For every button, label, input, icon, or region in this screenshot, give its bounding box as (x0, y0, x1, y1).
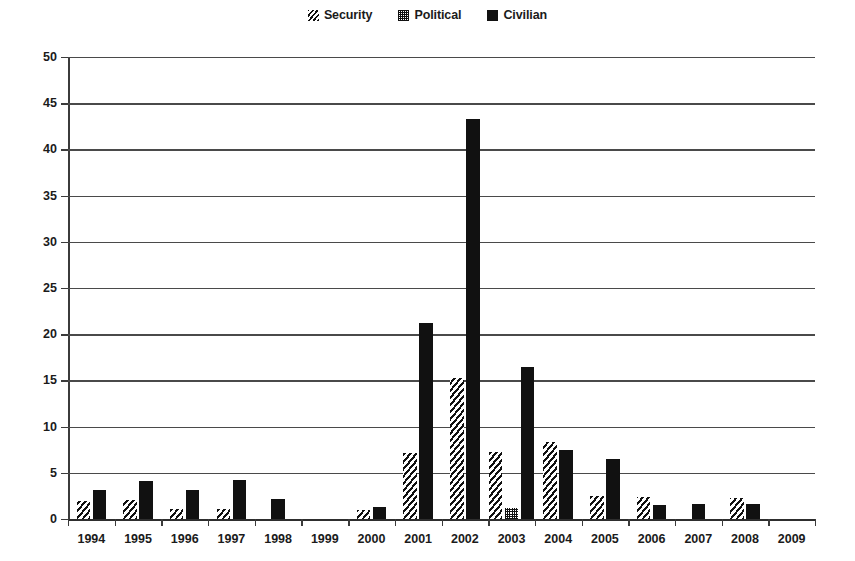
y-axis-tick-label: 20 (43, 327, 57, 341)
x-tick-mark (68, 519, 69, 526)
y-axis-tick-label: 25 (43, 281, 57, 295)
legend-label: Political (414, 8, 461, 22)
y-axis-tick-label: 10 (43, 420, 57, 434)
x-axis-tick-label-2004: 2004 (544, 532, 572, 546)
y-axis-tick-label: 5 (50, 466, 57, 480)
y-tick-mark-40 (61, 149, 68, 150)
x-axis-tick-label-1999: 1999 (311, 532, 339, 546)
x-tick-mark (115, 519, 116, 526)
x-tick-mark (348, 519, 349, 526)
y-tick-mark-35 (61, 196, 68, 197)
solid-black-swatch-icon (487, 10, 498, 21)
plot-area: 05101520253035404550 1994199519961997199… (68, 57, 815, 519)
x-axis-tick-label-2007: 2007 (684, 532, 712, 546)
y-axis-tick-label: 15 (43, 373, 57, 387)
bar-civilian-2003 (521, 367, 535, 519)
bar-security-1997 (217, 509, 231, 519)
y-tick-mark-20 (61, 334, 68, 335)
diagonal-hatch-swatch-icon (308, 10, 319, 21)
y-axis-tick-label: 35 (43, 189, 57, 203)
x-tick-mark (301, 519, 302, 526)
x-axis-tick-label-1995: 1995 (124, 532, 152, 546)
bar-civilian-1996 (186, 490, 200, 519)
x-tick-mark (582, 519, 583, 526)
x-tick-mark (768, 519, 769, 526)
x-axis-tick-label-1994: 1994 (77, 532, 105, 546)
bar-security-2004 (543, 442, 557, 519)
y-axis-tick-label: 30 (43, 235, 57, 249)
bar-civilian-2008 (746, 504, 760, 519)
bar-civilian-2007 (692, 504, 706, 519)
x-axis-tick-label-1997: 1997 (218, 532, 246, 546)
legend-label: Security (324, 8, 373, 22)
y-tick-mark-10 (61, 427, 68, 428)
legend-entry-security: Security (308, 8, 373, 22)
legend-label: Civilian (503, 8, 547, 22)
y-tick-mark-5 (61, 473, 68, 474)
chart-legend: SecurityPoliticalCivilian (0, 8, 855, 22)
x-axis-tick-label-2002: 2002 (451, 532, 479, 546)
bar-civilian-1998 (271, 499, 285, 519)
y-tick-mark-0 (61, 519, 68, 520)
bar-security-2003 (489, 452, 503, 519)
x-tick-mark (208, 519, 209, 526)
x-tick-mark (395, 519, 396, 526)
bars-group (68, 57, 815, 519)
y-tick-mark-30 (61, 242, 68, 243)
bar-security-2006 (637, 497, 651, 519)
x-tick-mark (488, 519, 489, 526)
x-tick-mark (255, 519, 256, 526)
x-tick-mark (442, 519, 443, 526)
x-axis-tick-label-2000: 2000 (358, 532, 386, 546)
y-axis-tick-label: 45 (43, 96, 57, 110)
bar-civilian-2004 (559, 450, 573, 519)
x-axis-tick-label-2009: 2009 (778, 532, 806, 546)
x-tick-mark (815, 519, 816, 526)
bar-civilian-1997 (233, 480, 247, 519)
bar-security-1996 (170, 509, 184, 519)
y-tick-mark-45 (61, 103, 68, 104)
y-axis-tick-label: 50 (43, 50, 57, 64)
bar-security-2008 (730, 498, 744, 519)
x-tick-mark (675, 519, 676, 526)
bar-civilian-1995 (139, 481, 153, 519)
dotted-grid-swatch-icon (398, 10, 409, 21)
x-axis-tick-label-2008: 2008 (731, 532, 759, 546)
y-tick-mark-50 (61, 57, 68, 58)
y-axis-tick-label: 0 (50, 512, 57, 526)
x-axis: 1994199519961997199819992000200120022003… (68, 519, 815, 561)
bar-security-2005 (590, 496, 604, 519)
bar-civilian-2001 (419, 323, 433, 519)
bar-security-2002 (450, 378, 464, 519)
bar-security-2001 (403, 453, 417, 519)
y-tick-mark-25 (61, 288, 68, 289)
legend-entry-political: Political (398, 8, 461, 22)
bar-civilian-2006 (653, 505, 667, 519)
x-tick-mark (161, 519, 162, 526)
x-axis-tick-label-2005: 2005 (591, 532, 619, 546)
x-axis-tick-label-2003: 2003 (498, 532, 526, 546)
y-tick-mark-15 (61, 380, 68, 381)
bar-civilian-2005 (606, 459, 620, 519)
bar-political-2003 (505, 508, 519, 519)
bar-security-2000 (357, 510, 371, 519)
x-axis-tick-label-1998: 1998 (264, 532, 292, 546)
bar-civilian-2002 (466, 119, 480, 519)
x-tick-mark (535, 519, 536, 526)
y-axis-tick-label: 40 (43, 142, 57, 156)
x-tick-mark (628, 519, 629, 526)
legend-entry-civilian: Civilian (487, 8, 547, 22)
bar-civilian-1994 (93, 490, 107, 519)
x-axis-tick-label-1996: 1996 (171, 532, 199, 546)
bar-civilian-2000 (373, 507, 387, 519)
bar-security-1994 (77, 501, 91, 519)
x-axis-tick-label-2001: 2001 (404, 532, 432, 546)
x-tick-mark (722, 519, 723, 526)
x-axis-tick-label-2006: 2006 (638, 532, 666, 546)
bar-security-1995 (123, 500, 137, 519)
